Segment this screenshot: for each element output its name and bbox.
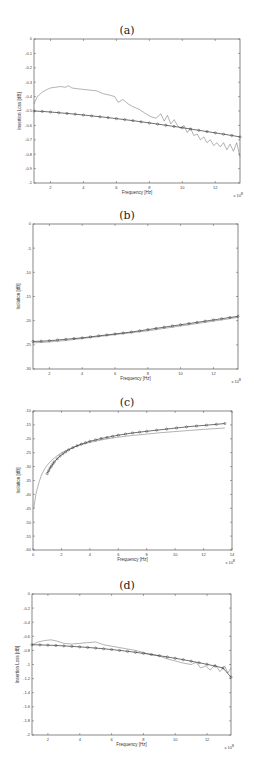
x-tick-label: 10	[173, 737, 178, 742]
x-tick-label: 4	[79, 737, 82, 742]
y-tick-label: -1.6	[23, 704, 31, 709]
panel-d: (d) 246810120-0.2-0.4-0.6-0.8-1-1.2-1.4-…	[0, 0, 254, 770]
y-tick-label: -2	[26, 732, 30, 737]
y-axis-label: Insertion Loss [dB]	[15, 646, 20, 683]
y-tick-label: -0.8	[23, 648, 31, 653]
y-tick-label: -0.6	[23, 634, 31, 639]
chart-d: 246810120-0.2-0.4-0.6-0.8-1-1.2-1.4-1.6-…	[0, 0, 254, 770]
x-tick-label: 12	[205, 737, 210, 742]
x-multiplier-exponent: 8	[232, 743, 235, 748]
y-tick-label: -0.2	[23, 606, 31, 611]
y-tick-label: -1.8	[23, 718, 31, 723]
y-tick-label: -0.4	[23, 620, 31, 625]
y-tick-label: 0	[28, 591, 31, 596]
x-axis-label: Frequency [Hz]	[116, 742, 147, 747]
y-tick-label: -1	[26, 662, 30, 667]
plot-frame	[32, 594, 231, 735]
y-tick-label: -1.4	[23, 690, 31, 695]
y-tick-label: -1.2	[23, 676, 31, 681]
x-tick-label: 6	[110, 737, 113, 742]
series-measured	[32, 640, 231, 673]
x-tick-label: 2	[47, 737, 50, 742]
